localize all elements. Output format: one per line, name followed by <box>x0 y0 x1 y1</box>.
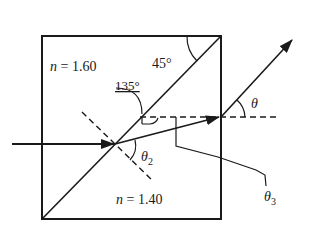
label-angle-135: 135° <box>115 78 140 93</box>
angle-arc-theta <box>237 100 245 117</box>
label-theta: θ <box>251 96 258 111</box>
prism-diagram: n = 1.60 45° 135° θ θ2 n = 1.40 θ3 <box>0 0 309 237</box>
angle-arc-45 <box>187 36 197 61</box>
label-theta3: θ3 <box>264 189 276 207</box>
label-n-top: n = 1.60 <box>50 59 96 74</box>
refracted-ray <box>115 117 219 144</box>
angle-arc-theta2 <box>130 140 136 160</box>
angle-arc-135 <box>142 117 158 124</box>
label-n-bottom: n = 1.40 <box>116 192 162 207</box>
label-angle-45: 45° <box>152 56 172 71</box>
label-theta2: θ2 <box>141 149 153 167</box>
